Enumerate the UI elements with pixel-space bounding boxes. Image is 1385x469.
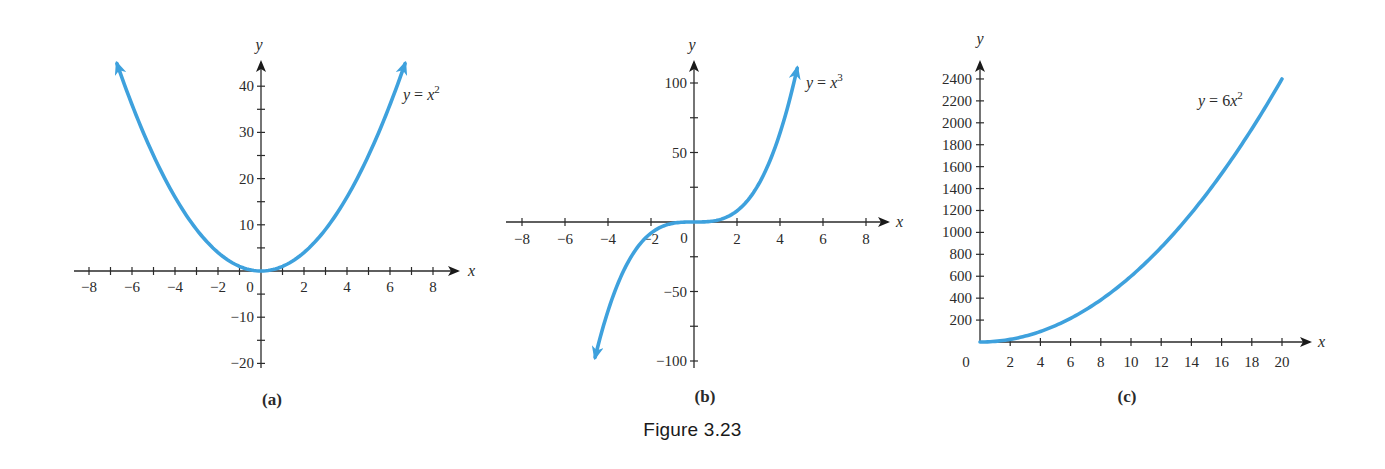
equation-label: y = x2 <box>401 83 440 104</box>
equation-label: y = 6x2 <box>1196 89 1243 110</box>
x-axis-label: x <box>1317 333 1325 350</box>
x-tick-label: 14 <box>1184 354 1200 370</box>
x-tick-label: 10 <box>1124 354 1139 370</box>
x-tick-label: 2 <box>1006 354 1014 370</box>
x-tick-label: 0 <box>680 230 688 246</box>
x-tick-label: 6 <box>819 231 827 247</box>
y-tick-label: 50 <box>672 145 687 161</box>
x-tick-label: −8 <box>514 231 530 247</box>
x-tick-label: 6 <box>1067 354 1075 370</box>
x-tick-label: −4 <box>167 279 183 295</box>
x-tick-label: 16 <box>1214 354 1230 370</box>
x-axis-label: x <box>895 213 903 230</box>
x-tick-label: 0 <box>246 279 254 295</box>
y-tick-label: −10 <box>231 309 254 325</box>
y-tick-label: 30 <box>239 124 254 140</box>
x-tick-label: 8 <box>1097 354 1105 370</box>
y-tick-label: 40 <box>239 78 254 94</box>
panel-label: (c) <box>1118 387 1137 406</box>
x-tick-label: 18 <box>1244 354 1259 370</box>
y-axis-label: y <box>253 36 263 54</box>
y-tick-label: 1600 <box>942 159 972 175</box>
x-tick-label: 2 <box>300 279 308 295</box>
x-tick-label: 8 <box>862 231 870 247</box>
x-tick-label: 2 <box>733 231 741 247</box>
y-tick-label: 2400 <box>942 71 972 87</box>
x-tick-label: −2 <box>210 279 226 295</box>
chart-c-y-equals-6x-squared: 0246810121416182024002200200018001600140… <box>942 30 1325 406</box>
chart-b-y-equals-x-cubed: −8−6−4−20246810050−50−100yxy = x3(b) <box>506 36 903 406</box>
panel-label: (b) <box>695 387 716 406</box>
chart-a-y-equals-x-squared: −8−6−4−20246840302010−10−20yxy = x2(a) <box>74 36 475 409</box>
x-axis-label: x <box>467 262 475 279</box>
y-tick-label: 1000 <box>942 224 972 240</box>
x-tick-label: 0 <box>962 354 970 370</box>
y-tick-label: 100 <box>665 75 688 91</box>
y-tick-label: −20 <box>231 355 254 371</box>
x-tick-label: −4 <box>600 231 616 247</box>
x-tick-label: 6 <box>386 279 394 295</box>
y-tick-label: 1800 <box>942 137 972 153</box>
panel-label: (a) <box>262 390 282 409</box>
y-axis-label: y <box>974 30 984 48</box>
y-tick-label: 600 <box>950 268 973 284</box>
x-tick-label: 8 <box>429 279 437 295</box>
y-axis-label: y <box>686 36 696 54</box>
function-curve <box>595 68 797 357</box>
y-tick-label: 20 <box>239 171 254 187</box>
y-tick-label: 1400 <box>942 181 972 197</box>
x-tick-label: −8 <box>81 279 97 295</box>
x-tick-label: −6 <box>557 231 573 247</box>
x-tick-label: 20 <box>1275 354 1290 370</box>
figure-3-23: −8−6−4−20246840302010−10−20yxy = x2(a) −… <box>0 0 1385 469</box>
x-tick-label: 12 <box>1154 354 1169 370</box>
y-tick-label: −100 <box>656 353 687 369</box>
x-tick-label: 4 <box>776 231 784 247</box>
figure-caption: Figure 3.23 <box>0 419 1385 441</box>
y-tick-label: 10 <box>239 217 254 233</box>
x-tick-label: −6 <box>124 279 140 295</box>
y-tick-label: 1200 <box>942 202 972 218</box>
y-tick-label: 400 <box>950 290 973 306</box>
y-tick-label: 2200 <box>942 93 972 109</box>
y-tick-label: −50 <box>664 284 687 300</box>
y-tick-label: 2000 <box>942 115 972 131</box>
equation-label: y = x3 <box>804 71 843 92</box>
x-tick-label: 4 <box>1037 354 1045 370</box>
y-tick-label: 200 <box>950 312 973 328</box>
function-curve <box>980 79 1282 342</box>
y-tick-label: 800 <box>950 246 973 262</box>
x-tick-label: 4 <box>343 279 351 295</box>
